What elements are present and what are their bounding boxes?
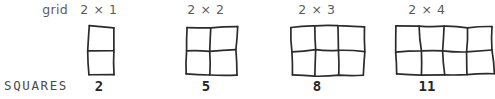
grid-size-label-3: 2 × 3 <box>292 2 342 18</box>
squares-count-4: 11 <box>400 76 454 96</box>
row-label-grid: grid <box>22 2 68 18</box>
grid-figure-2 <box>184 24 238 72</box>
squares-count-1: 2 <box>78 76 120 96</box>
squares-count-2: 5 <box>181 76 231 96</box>
squares-count-3: 8 <box>292 76 342 96</box>
grid-figure-3 <box>288 24 366 72</box>
grid-size-label-1: 2 × 1 <box>78 2 120 18</box>
grid-figure-4 <box>393 24 495 72</box>
grid-figure-1 <box>85 24 115 72</box>
grid-size-label-2: 2 × 2 <box>181 2 231 18</box>
row-label-squares: SQUARES <box>4 77 68 95</box>
grid-size-label-4: 2 × 4 <box>400 2 454 18</box>
